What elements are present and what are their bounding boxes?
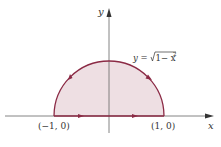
point-label-left: (−1, 0) (38, 121, 70, 131)
equation-exponent: 2 (173, 51, 177, 57)
y-axis-arrow-icon (107, 8, 112, 17)
x-axis-label: x (208, 120, 214, 131)
y-axis-label: y (97, 6, 104, 17)
point-label-right: (1, 0) (151, 121, 175, 131)
equation-lhs: y = (132, 53, 148, 63)
semicircle-region-diagram: y x y = 1− x 2 (−1, 0) (1, 0) (0, 0, 221, 147)
x-axis-arrow-icon (205, 114, 214, 119)
